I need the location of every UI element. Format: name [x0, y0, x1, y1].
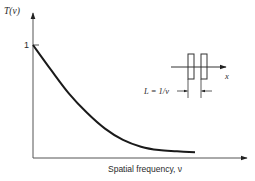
bar-target-inset: x L = 1/ν — [143, 54, 229, 98]
series-line-transfer-function — [33, 45, 195, 152]
y-tick-label-1: 1 — [24, 40, 29, 50]
mtf-chart: 1 T(ν) Spatial frequency, ν x L = 1/ν — [0, 0, 255, 181]
y-axis-label: T(ν) — [4, 6, 20, 17]
inset-annotation: L = 1/ν — [143, 86, 169, 96]
inset-x-label: x — [224, 71, 229, 81]
x-axis-label: Spatial frequency, ν — [108, 164, 182, 174]
